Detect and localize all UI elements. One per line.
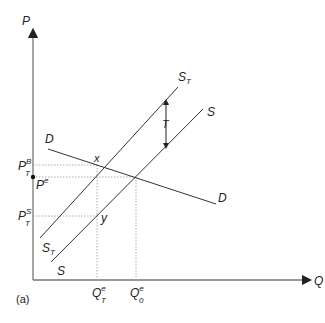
demand-label-top: D [45, 132, 54, 146]
supply-tax-label-bottom: ST [42, 241, 56, 257]
point-x-label: x [93, 152, 100, 164]
tax-label: T [162, 118, 170, 130]
panel-label: (a) [16, 293, 29, 305]
seller-price-label: PST [18, 207, 32, 228]
demand-curve [48, 149, 216, 204]
tax-quantity-label: QeT [92, 284, 107, 305]
supply-tax-label-top: ST [178, 70, 192, 86]
supply-label-top: S [207, 105, 215, 119]
supply-with-tax-curve [40, 87, 178, 238]
buyer-price-label: PBT [18, 157, 32, 178]
supply-curve [51, 109, 203, 262]
y-axis-label: P [22, 14, 30, 28]
equilibrium-price-label: Pe [36, 176, 49, 192]
tax-incidence-diagram: P Q T D D S S ST ST x y PBT Pe PST QeT Q… [0, 0, 325, 323]
demand-label-bottom: D [218, 191, 227, 205]
supply-label-bottom: S [57, 264, 65, 278]
equilibrium-price-dot [31, 175, 35, 179]
original-quantity-label: Qe0 [130, 284, 144, 305]
point-y-label: y [100, 211, 108, 225]
x-axis-label: Q [314, 274, 323, 288]
